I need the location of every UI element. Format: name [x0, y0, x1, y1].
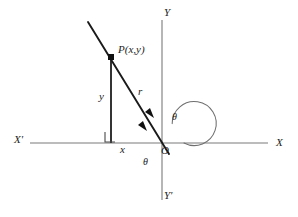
- axis-label-y-positive: Y: [164, 7, 170, 18]
- right-angle-marker: [105, 132, 115, 142]
- diagram-canvas: [0, 0, 298, 217]
- segment-label-x: x: [120, 144, 125, 155]
- angle-label-theta-lower: θ: [143, 157, 148, 167]
- axis-label-y-negative: Y': [164, 190, 172, 201]
- point-label-p: P(x,y): [118, 44, 145, 55]
- segment-label-r: r: [138, 86, 142, 97]
- terminal-ray: [88, 22, 169, 154]
- origin-label: O: [161, 145, 169, 156]
- point-p-marker: [108, 54, 114, 60]
- angle-label-theta-upper: θ: [172, 112, 177, 122]
- axis-label-x-positive: X: [276, 137, 283, 148]
- angle-arc: [172, 102, 216, 146]
- arrowhead-lower-on-ray: [138, 121, 147, 131]
- segment-label-y: y: [99, 91, 104, 102]
- polar-coordinate-diagram: Y Y' X X' P(x,y) y r x O θ θ: [0, 0, 298, 217]
- axis-label-x-negative: X': [14, 134, 23, 145]
